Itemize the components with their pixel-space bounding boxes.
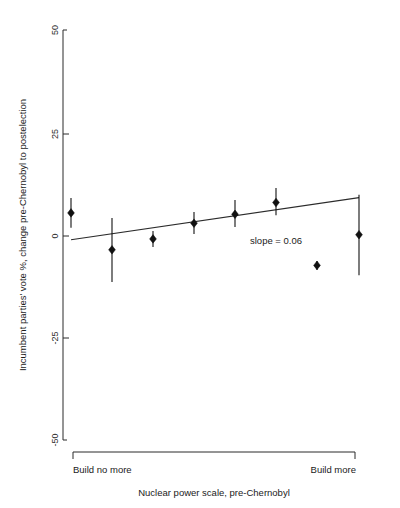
data-series — [68, 188, 363, 282]
data-point-group-7 — [314, 261, 321, 270]
y-tick-label-25: 25 — [50, 129, 60, 139]
data-point-group-1 — [68, 198, 75, 228]
x-axis-right-end-label: Build more — [311, 464, 356, 475]
marker-4 — [191, 219, 198, 228]
y-axis: 50 25 0 -25 -50 Incumbent parties' vote … — [17, 25, 69, 447]
y-tick-label-neg25: -25 — [50, 331, 60, 344]
x-axis-left-end-label: Build no more — [73, 464, 132, 475]
marker-5 — [232, 210, 239, 219]
x-axis: Build no more Build more Nuclear power s… — [73, 452, 356, 498]
y-axis-title: Incumbent parties' vote %, change pre-Ch… — [17, 99, 28, 371]
regression-line — [71, 198, 359, 240]
marker-1 — [68, 209, 75, 218]
x-axis-title: Nuclear power scale, pre-Chernobyl — [138, 487, 290, 498]
data-point-group-4 — [191, 212, 198, 234]
slope-annotation: slope = 0.06 — [250, 235, 302, 246]
scatter-plot-canvas: 50 25 0 -25 -50 Incumbent parties' vote … — [0, 0, 400, 508]
regression-line-group — [71, 198, 359, 240]
marker-8 — [356, 230, 363, 239]
marker-3 — [150, 235, 157, 244]
marker-6 — [273, 198, 280, 207]
marker-2 — [109, 246, 116, 255]
data-point-group-2 — [109, 218, 116, 282]
y-tick-label-neg50: -50 — [50, 433, 60, 446]
data-point-group-5 — [232, 200, 239, 227]
y-tick-label-0: 0 — [50, 233, 60, 238]
data-point-group-3 — [150, 231, 157, 247]
data-point-group-8 — [356, 195, 363, 275]
marker-7 — [314, 261, 321, 270]
y-tick-label-50: 50 — [50, 25, 60, 35]
y-axis-line — [63, 30, 67, 440]
data-point-group-6 — [273, 188, 280, 215]
x-axis-bracket — [73, 452, 355, 459]
